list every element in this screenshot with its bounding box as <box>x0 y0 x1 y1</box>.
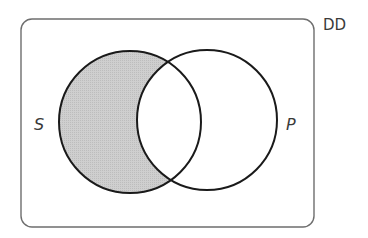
set-label-p: P <box>286 115 296 134</box>
venn-diagram: S P DD <box>0 0 368 238</box>
universe-label: DD <box>323 16 346 34</box>
set-label-s: S <box>34 115 44 134</box>
